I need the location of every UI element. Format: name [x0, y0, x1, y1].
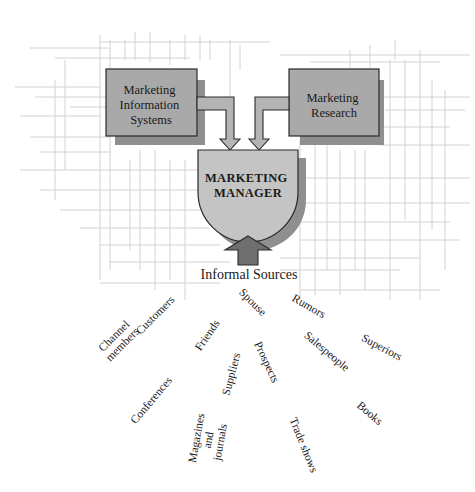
elbow-arrow-icon	[249, 97, 289, 150]
source-magazines-and-journals: Magazinesandjournals	[186, 412, 231, 468]
source-conferences: Conferences	[128, 374, 174, 426]
source-customers: Customers	[133, 293, 177, 337]
source-friends: Friends	[192, 317, 222, 353]
research-to-manager-arrow	[249, 97, 289, 150]
mis-node: Marketing Information Systems	[106, 69, 205, 145]
informal-sources-title: Informal Sources	[201, 267, 298, 282]
source-suppliers: Suppliers	[220, 351, 244, 397]
source-books: Books	[355, 399, 386, 427]
manager-node: MARKETING MANAGER	[198, 150, 306, 250]
source-spouse: Spouse	[236, 286, 269, 319]
manager-label: MARKETING MANAGER	[205, 171, 291, 200]
source-prospects: Prospects	[251, 339, 282, 385]
research-label: Marketing Research	[306, 91, 361, 120]
research-node: Marketing Research	[289, 69, 384, 145]
source-trade-shows: Trade shows	[288, 416, 321, 475]
source-salespeople: Salespeople	[301, 329, 351, 374]
source-channel-members: Channelmembers	[95, 316, 142, 363]
source-superiors: Superiors	[359, 331, 404, 363]
informal-sources-list: ChannelmembersCustomersFriendsConference…	[95, 286, 405, 475]
source-rumors: Rumors	[290, 292, 328, 321]
marketing-information-diagram: Marketing Information Systems Marketing …	[0, 0, 475, 492]
